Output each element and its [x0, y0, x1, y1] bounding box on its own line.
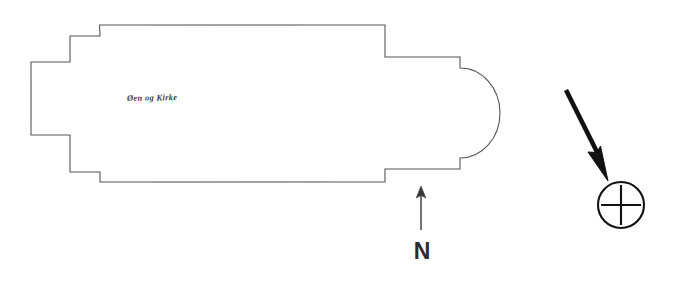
floor-plan-drawing [0, 0, 674, 285]
handwritten-plan-annotation: Øen og Kirke [127, 89, 199, 107]
paper-background [0, 0, 674, 285]
north-arrow-label: N [404, 238, 440, 264]
location-marker[interactable] [598, 182, 644, 228]
scan-sheet: Øen og Kirke N [0, 0, 674, 285]
